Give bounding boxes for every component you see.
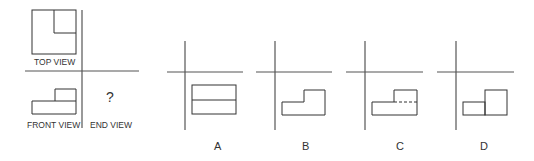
option-c-figure[interactable] bbox=[346, 41, 423, 130]
option-d-figure[interactable] bbox=[437, 41, 514, 130]
option-c-label[interactable]: C bbox=[396, 140, 404, 152]
front-view-label: FRONT VIEW bbox=[27, 120, 80, 130]
top-view-label: TOP VIEW bbox=[34, 57, 75, 67]
option-b-figure[interactable] bbox=[256, 41, 332, 130]
option-b-label[interactable]: B bbox=[302, 140, 309, 152]
front-view-shape bbox=[32, 89, 76, 114]
top-view-shape bbox=[32, 10, 76, 54]
option-a-figure[interactable] bbox=[167, 41, 243, 130]
unknown-end-view-mark: ? bbox=[106, 89, 114, 105]
option-a-label[interactable]: A bbox=[214, 140, 221, 152]
end-view-label: END VIEW bbox=[90, 120, 132, 130]
diagram-canvas bbox=[0, 0, 534, 161]
option-d-label[interactable]: D bbox=[480, 140, 488, 152]
